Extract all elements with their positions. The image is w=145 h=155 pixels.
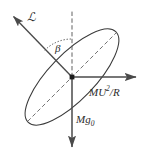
centripetal-force-label: MU2/R — [89, 85, 120, 98]
lift-force-vector — [14, 17, 73, 78]
weight-subscript: 0 — [91, 119, 95, 128]
weight-force-label: Mg0 — [76, 114, 94, 128]
weight-prefix: Mg — [76, 113, 91, 125]
centripetal-suffix: /R — [110, 86, 120, 98]
origin-point — [70, 75, 75, 80]
force-diagram-figure: ℒ β MU2/R Mg0 — [0, 0, 145, 155]
centripetal-prefix: MU — [89, 86, 106, 98]
lift-force-label: ℒ — [27, 11, 36, 23]
diagram-canvas — [0, 0, 145, 155]
beta-angle-label: β — [55, 43, 60, 54]
